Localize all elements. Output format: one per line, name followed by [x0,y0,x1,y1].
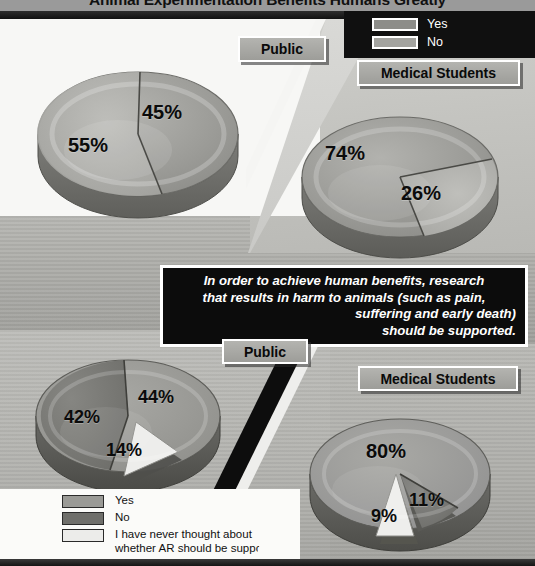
legend-label-line1: I have never thought about [115,528,252,540]
page-title: Animal Experimentation Benefits Humans G… [0,0,535,13]
pie-chart-medical-top: 74% 26% [296,97,508,249]
legend-item: I have never thought about whether AR sh… [62,528,300,555]
quote-box: In order to achieve human benefits, rese… [160,265,528,347]
legend-swatch-no [372,36,418,49]
quote-line-4: should be supported. [172,323,516,340]
legend-item: No [62,511,300,525]
quote-line-3: suffering and early death) [172,306,516,323]
caption-medical-bottom: Medical Students [358,366,518,391]
pie-chart-medical-bottom: 80% 11% 9% [306,398,502,558]
legend-label-yes: Yes [427,17,447,31]
legend-swatch-no [62,512,104,525]
pie-chart-public-bottom: 44% 42% 14% [32,344,232,492]
legend-label-yes: Yes [115,494,134,508]
pie-value-42: 42% [64,407,100,428]
pie-value-74: 74% [325,142,365,165]
legend-item: No [372,35,535,49]
pie-value-14: 14% [106,440,142,461]
legend-item: Yes [62,494,300,508]
legend-label-no: No [115,511,130,525]
caption-public-top: Public [238,36,326,62]
caption-medical-top: Medical Students [357,60,520,86]
pie-value-26: 26% [401,182,441,205]
legend-item: Yes [372,17,535,31]
pie-value-11: 11% [409,490,444,511]
quote-line-2: that results in harm to animals (such as… [172,290,516,307]
legend-label-no: No [427,35,443,49]
legend-swatch-yes [372,18,418,31]
pie-value-9: 9% [371,506,397,527]
pie-value-44: 44% [138,387,174,408]
pie-value-45: 45% [142,101,182,124]
legend-top: Yes No [344,11,535,58]
pie-value-55: 55% [68,134,108,157]
bottom-black-bar [0,559,535,566]
pie-value-80: 80% [366,440,406,463]
legend-bottom: Yes No I have never thought about whethe… [0,489,300,559]
legend-swatch-yes [62,495,104,508]
legend-label-line2: whether AR should be supported [115,542,282,554]
legend-label-never-thought: I have never thought about whether AR sh… [115,528,282,555]
legend-swatch-never-thought [62,529,104,542]
quote-line-1: In order to achieve human benefits, rese… [172,273,516,290]
poster-figure: Animal Experimentation Benefits Humans G… [0,0,535,566]
pie-chart-public-top: 45% 55% [30,46,245,211]
caption-public-bottom: Public [222,339,308,364]
